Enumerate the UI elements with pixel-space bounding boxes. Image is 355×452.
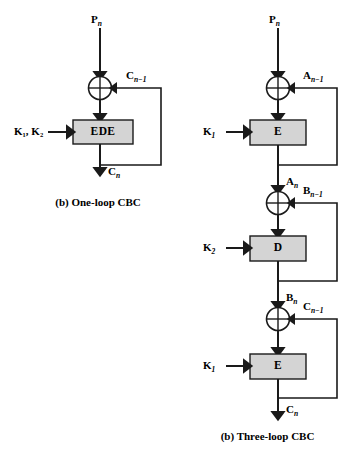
- three-loop-cbc-panel: [226, 28, 337, 416]
- label-key-k2-stage2: K2: [203, 242, 215, 253]
- label-key-k1-stage1: K1: [203, 126, 215, 137]
- figure-root: Pn Cn−1 K₁, K₂ EDE Cn (b) One-loop CBC P…: [0, 0, 355, 452]
- label-key-k1-stage3: K1: [203, 360, 215, 371]
- cipher-box-label-e-1: E: [250, 126, 306, 138]
- label-feedback-cn1-right: Cn−1: [303, 301, 323, 312]
- label-feedback-bn1: Bn−1: [303, 185, 323, 196]
- label-output-cn-right: Cn: [286, 404, 298, 415]
- label-feedback-an1: An−1: [303, 70, 323, 81]
- cipher-box-label-ede: EDE: [73, 126, 133, 138]
- caption-three-loop-cbc: (b) Three-loop CBC: [180, 430, 355, 442]
- cipher-box-label-d: D: [250, 242, 306, 254]
- diagram-vector-layer: [0, 0, 355, 452]
- one-loop-cbc-panel: [48, 28, 161, 172]
- label-input-pn-left: Pn: [91, 14, 102, 25]
- label-output-cn-left: Cn: [108, 166, 120, 177]
- label-feedback-cn1-left: Cn−1: [126, 70, 146, 81]
- label-input-pn-right: Pn: [269, 14, 280, 25]
- cipher-box-label-e-2: E: [250, 360, 306, 372]
- label-intermediate-an: An: [286, 176, 298, 187]
- caption-one-loop-cbc: (b) One-loop CBC: [0, 196, 196, 208]
- label-keys-k1-k2: K₁, K₂: [14, 126, 43, 137]
- label-intermediate-bn: Bn: [286, 292, 298, 303]
